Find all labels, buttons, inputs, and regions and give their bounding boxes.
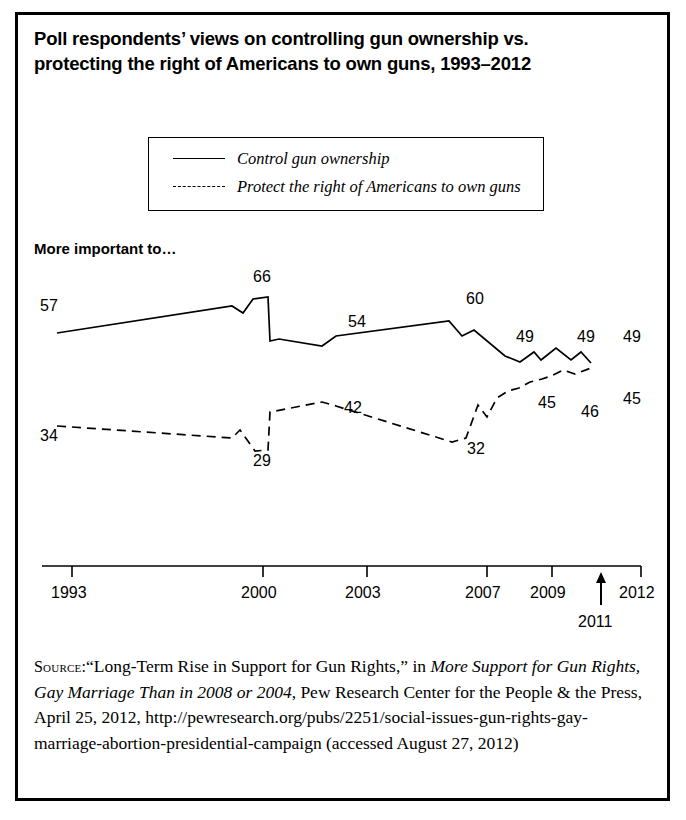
value-label-49-b: 49	[577, 328, 595, 346]
legend-item-label: Control gun ownership	[237, 149, 390, 169]
title-line-1: Poll respondents’ views on controlling g…	[34, 26, 624, 51]
figure-page: Poll respondents’ views on controlling g…	[0, 0, 686, 820]
value-label-34: 34	[40, 427, 58, 445]
x-axis-label-2003: 2003	[345, 584, 381, 602]
x-axis-label-2000: 2000	[241, 584, 277, 602]
value-label-46: 46	[581, 403, 599, 421]
value-label-60: 60	[466, 290, 484, 308]
value-label-54: 54	[348, 313, 366, 331]
title-line-2: protecting the right of Americans to own…	[34, 51, 624, 76]
source-prefix: Source:	[34, 658, 86, 675]
solid-line-swatch-icon	[173, 152, 225, 166]
x-axis-label-2007: 2007	[465, 584, 501, 602]
source-text-1: “Long-Term Rise in Support for Gun Right…	[86, 656, 430, 676]
source-note: Source:“Long-Term Rise in Support for Gu…	[34, 654, 646, 756]
legend-item-protect-right-to-own-guns: Protect the right of Americans to own gu…	[173, 177, 521, 197]
value-label-49-a: 49	[516, 328, 534, 346]
dashed-line-swatch-icon	[173, 180, 225, 194]
value-label-32: 32	[467, 440, 485, 458]
value-label-45-b: 45	[623, 390, 641, 408]
x-axis-label-2009: 2009	[530, 584, 566, 602]
value-label-49-c: 49	[623, 328, 641, 346]
value-label-45-a: 45	[538, 394, 556, 412]
value-label-29: 29	[253, 452, 271, 470]
legend-item-control-gun-ownership: Control gun ownership	[173, 149, 390, 169]
annotation-label-2011: 2011	[578, 613, 612, 631]
chart-legend: Control gun ownership Protect the right …	[148, 137, 544, 211]
page-title: Poll respondents’ views on controlling g…	[34, 26, 624, 76]
x-axis-label-2012: 2012	[619, 584, 655, 602]
axis-note-more-important: More important to…	[34, 240, 177, 257]
value-label-42: 42	[344, 399, 362, 417]
value-label-57: 57	[40, 297, 58, 315]
value-label-66: 66	[253, 268, 271, 286]
x-axis-label-1993: 1993	[51, 584, 87, 602]
legend-item-label: Protect the right of Americans to own gu…	[237, 177, 521, 197]
